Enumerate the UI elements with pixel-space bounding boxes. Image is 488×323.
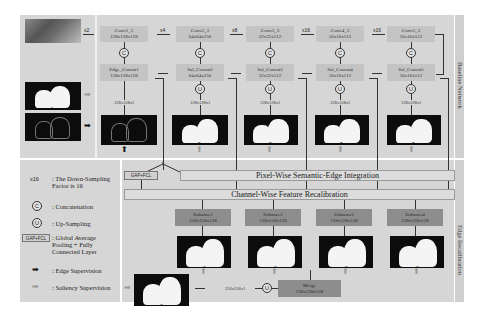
sal-concat2-block: Sal_Concat2 64x64x256 xyxy=(176,64,224,81)
saliency-supervision-arrow-icon: ⬆ xyxy=(342,268,349,276)
edge-recalibration-label: Edge Recalibration xyxy=(455,200,464,300)
connector xyxy=(435,34,443,35)
legend-edge-arrow-icon: ➡ xyxy=(32,266,39,274)
legend-concat-text: : Concatenation xyxy=(52,203,93,210)
legend-concat-icon: C xyxy=(32,201,42,211)
saliency-ground-truth xyxy=(25,82,81,110)
conv2-3-block: Conv2_3 64x64x256 xyxy=(176,26,224,42)
arrow xyxy=(158,73,168,74)
upsample-icon: U xyxy=(262,283,272,293)
saliency-supervision-arrow-icon: ⬆ xyxy=(196,146,203,154)
connector xyxy=(443,34,444,74)
connector xyxy=(310,270,311,280)
connector xyxy=(448,181,449,189)
upsample-icon: U xyxy=(195,84,205,94)
block-dims: 32x32x512 xyxy=(259,73,282,79)
block-dims: 16x16x512 xyxy=(329,73,352,79)
saliency-supervision-arrow-icon: ⬆ xyxy=(266,146,273,154)
connector xyxy=(377,181,378,189)
connector xyxy=(124,81,125,115)
block-dims: 16x16x512 xyxy=(400,34,423,40)
output-dims: 128x128x1 xyxy=(104,100,144,105)
block-dims: 128x128x128 xyxy=(296,289,324,295)
edge-supervision-arrow-icon: ⬆ xyxy=(121,146,128,154)
legend-saliency-arrow-icon: ➡ xyxy=(32,283,39,291)
block-dims: 128x128x128 xyxy=(110,73,138,79)
output-dims: 128x128x1 xyxy=(250,100,290,105)
connector xyxy=(415,226,416,236)
output-dims: 128x128x1 xyxy=(391,100,431,105)
block-dims: 64x64x256 xyxy=(189,34,212,40)
final-saliency-output xyxy=(134,274,189,306)
legend-edge-text: : Edge Supervision xyxy=(52,267,101,274)
connector xyxy=(436,74,444,75)
factor-x8: x8 xyxy=(232,27,237,33)
concat-icon: C xyxy=(406,48,416,58)
saliency-side-output-4 xyxy=(315,115,369,145)
enhance4-block: Enhance4 128x128x128 xyxy=(387,209,443,226)
block-dims: 128x128x128 xyxy=(259,218,287,224)
enhance2-block: Enhance2 128x128x128 xyxy=(245,209,301,226)
connector xyxy=(344,200,345,209)
block-dims: 128x128x128 xyxy=(110,34,138,40)
sal-concat4-block: Sal_Concat4 16x16x512 xyxy=(316,64,364,81)
channel-wise-recalibration-bar: Channel-Wise Feature Recalibration xyxy=(124,189,455,200)
conv3-3-block: Conv3_3 32x32x512 xyxy=(246,26,294,42)
factor-x2: x2 xyxy=(84,27,89,33)
arrow xyxy=(301,34,314,35)
edge-side-output xyxy=(101,115,157,145)
arrow xyxy=(195,288,205,289)
block-dims: 64x64x256 xyxy=(189,73,212,79)
concat-icon: C xyxy=(195,48,205,58)
legend-factor-text: : The Down-Sampling Factor is 16 xyxy=(52,175,118,189)
connector xyxy=(236,181,237,189)
saliency-supervision-arrow-icon: ⬆ xyxy=(408,146,415,154)
pixel-wise-integration-bar: Pixel-Wise Semantic-Edge Integration xyxy=(180,170,455,181)
saliency-supervision-arrow-icon: ⬆ xyxy=(200,268,207,276)
sal-concat3-block: Sal_Concat3 32x32x512 xyxy=(246,64,294,81)
conv1-2-block: Conv1_2 128x128x128 xyxy=(100,26,148,42)
gap-fcl-block: GAP+FCL xyxy=(124,171,158,180)
connector xyxy=(298,78,306,79)
block-dims: 128x128x128 xyxy=(330,218,358,224)
edge-ground-truth xyxy=(25,113,81,141)
block-dims: 128x128x128 xyxy=(189,218,217,224)
block-dims: 16x16x512 xyxy=(329,34,352,40)
merge-block: Merge 128x128x128 xyxy=(278,280,341,297)
input-column-divider xyxy=(95,15,97,158)
connector xyxy=(255,288,262,289)
legend-gap-fcl-symbol: GAP+FCL xyxy=(22,234,50,242)
sal-concat5-block: Sal_Concat5 16x16x512 xyxy=(387,64,435,81)
connector xyxy=(415,200,416,209)
connector xyxy=(448,78,449,170)
conv5-3-block: Conv5_3 16x16x512 xyxy=(387,26,435,42)
connector xyxy=(236,78,237,170)
factor-x4: x4 xyxy=(160,27,165,33)
enhanced-output-2 xyxy=(248,236,302,268)
output-dims: 128x128x1 xyxy=(180,100,220,105)
arrow-x2 xyxy=(83,34,94,35)
baseline-network-label: Baseline Network xyxy=(455,40,464,130)
block-dims: 16x16x512 xyxy=(400,73,423,79)
saliency-supervision-arrow-icon: ⬆ xyxy=(337,146,344,154)
legend-factor-symbol: x16 xyxy=(30,176,39,183)
conv4-3-block: Conv4_3 16x16x512 xyxy=(316,26,364,42)
connector xyxy=(228,78,236,79)
output-dims: 128x128x1 xyxy=(320,100,360,105)
connector xyxy=(440,78,448,79)
final-output-dims: 256x256x1 xyxy=(215,286,255,291)
arrow xyxy=(157,34,170,35)
edge-supervision-arrow-icon: ➡ xyxy=(84,122,91,130)
saliency-supervision-arrow-icon: ⬆ xyxy=(271,268,278,276)
connector xyxy=(271,288,278,289)
enhance3-block: Enhance3 128x128x128 xyxy=(316,209,372,226)
connector xyxy=(306,181,307,189)
concat-icon: C xyxy=(119,48,129,58)
connector xyxy=(202,226,203,236)
saliency-supervision-arrow-icon: ⬆ xyxy=(413,268,420,276)
connector xyxy=(273,226,274,236)
legend-gap-text: : Global Average Pooling + Fully Connect… xyxy=(52,234,114,255)
saliency-side-output-5 xyxy=(387,115,441,145)
block-dims: 128x128x128 xyxy=(401,218,429,224)
connector xyxy=(273,200,274,209)
